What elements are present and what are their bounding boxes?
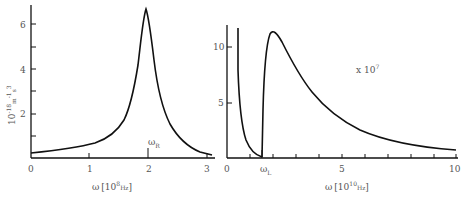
left-resonance-curve — [31, 9, 212, 155]
left-x-ticks — [89, 148, 207, 158]
right-x-tick-0: 0 — [224, 164, 230, 174]
left-y-tick-4: 4 — [20, 65, 26, 75]
left-y-tick-2: 2 — [20, 109, 26, 119]
right-curve-high-branch — [262, 32, 456, 157]
right-y-tick-5: 5 — [218, 98, 224, 108]
figure: 2 4 6 0 1 2 3 ωR ω[108Hz] 10-18m-1s3 5 1… — [0, 0, 464, 198]
right-curve-low-branch — [238, 28, 262, 157]
left-y-tick-6: 6 — [20, 20, 26, 30]
left-x-tick-0: 0 — [28, 164, 34, 174]
left-x-tick-1: 1 — [87, 164, 93, 174]
right-x-tick-10: 10 — [449, 164, 461, 174]
right-x-tick-5: 5 — [339, 164, 345, 174]
left-x-label: ω[108Hz] — [92, 180, 132, 192]
right-x-label: ω[1010Hz] — [325, 180, 369, 192]
right-annotation-omega-l: ωL — [260, 164, 271, 176]
left-x-tick-3: 3 — [204, 164, 210, 174]
right-x-ticks — [250, 150, 456, 158]
right-chart: 5 10 0 5 10 ωL ω[1010Hz] x 107 — [213, 25, 461, 192]
left-y-label: 10-18m-1s3 — [5, 85, 17, 125]
right-y-tick-10: 10 — [213, 42, 225, 52]
right-scale-note: x 107 — [356, 63, 379, 75]
left-x-tick-2: 2 — [146, 164, 152, 174]
left-annotation-omega-r: ωR — [148, 137, 160, 149]
right-y-ticks — [227, 47, 232, 103]
left-y-ticks — [31, 24, 36, 136]
left-chart: 2 4 6 0 1 2 3 ωR ω[108Hz] 10-18m-1s3 — [5, 5, 215, 192]
